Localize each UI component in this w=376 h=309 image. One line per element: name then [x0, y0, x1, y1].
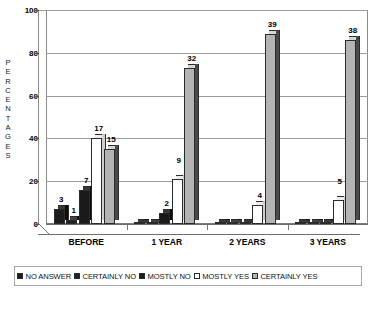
bar[interactable] — [308, 223, 319, 225]
bar-front-face — [134, 222, 145, 224]
bar-side-face — [238, 219, 242, 221]
bar[interactable] — [79, 190, 90, 224]
y-axis-title-letter: N — [2, 104, 14, 113]
bar-value-label: 39 — [264, 20, 281, 29]
legend-label: CERTAINLY NO — [83, 272, 137, 281]
x-axis-separator-tick — [127, 225, 128, 230]
legend-label: MOSTLY YES — [202, 272, 249, 281]
y-axis-tick-mark — [34, 181, 39, 182]
y-axis-tick-mark — [34, 96, 39, 97]
y-axis-tick-mark — [34, 138, 39, 139]
bar-front-face — [54, 209, 65, 224]
bar[interactable] — [252, 205, 263, 224]
plot-area: 31717152932439538 — [38, 10, 368, 235]
y-axis-tick-mark — [34, 10, 39, 11]
y-axis-title-letter: E — [2, 95, 14, 104]
x-axis-category-label: 1 YEAR — [127, 237, 208, 247]
bar[interactable] — [91, 138, 102, 224]
bar[interactable] — [320, 223, 331, 225]
bar-front-face — [227, 222, 238, 224]
bar[interactable] — [215, 223, 226, 225]
y-axis-title-letter: E — [2, 67, 14, 76]
y-axis-title-letter: P — [2, 58, 14, 67]
bar-value-label: 3 — [53, 195, 70, 204]
bar-side-face — [195, 64, 199, 220]
legend-item[interactable]: CERTAINLY YES — [252, 272, 318, 281]
bar-chart: PERCENTAGES 100806040200 317171529324395… — [0, 0, 376, 309]
bar-front-face — [91, 138, 102, 224]
y-axis-title: PERCENTAGES — [2, 58, 14, 160]
legend-label: MOSTLY NO — [148, 272, 191, 281]
bar-front-face — [184, 68, 195, 224]
y-axis-tick-labels: 100806040200 — [14, 0, 38, 240]
y-axis-tick-mark — [34, 53, 39, 54]
bar[interactable] — [240, 223, 251, 225]
bar-front-face — [215, 222, 226, 224]
bar-front-face — [104, 149, 115, 224]
bar-front-face — [345, 40, 356, 224]
bar[interactable] — [159, 213, 170, 224]
chart-legend: NO ANSWERCERTAINLY NOMOSTLY NOMOSTLY YES… — [14, 266, 362, 286]
bar-front-face — [333, 200, 344, 224]
bar[interactable] — [134, 223, 145, 225]
bar-front-face — [159, 213, 170, 224]
legend-item[interactable]: MOSTLY YES — [194, 272, 249, 281]
y-axis-title-letter: G — [2, 132, 14, 141]
bar-value-label: 15 — [103, 135, 120, 144]
legend-item[interactable]: CERTAINLY NO — [74, 272, 136, 281]
bar-group: 439 — [215, 10, 276, 224]
bar-front-face — [172, 179, 183, 224]
legend-swatch-icon — [17, 273, 23, 279]
bar[interactable] — [295, 223, 306, 225]
bar-front-face — [295, 222, 306, 224]
x-axis-separator-tick — [288, 225, 289, 230]
bar-front-face — [79, 190, 90, 224]
bar-side-face — [115, 145, 119, 220]
bar-group: 538 — [295, 10, 356, 224]
bar-groups: 31717152932439538 — [46, 10, 368, 224]
x-axis-category-label: 3 YEARS — [288, 237, 369, 247]
bar-side-face — [145, 219, 149, 221]
bar[interactable] — [147, 223, 158, 225]
bar[interactable] — [333, 200, 344, 224]
bar-front-face — [252, 205, 263, 224]
legend-swatch-icon — [74, 273, 80, 279]
bar-group: 2932 — [134, 10, 195, 224]
bar-front-face — [147, 222, 158, 224]
bar[interactable] — [227, 223, 238, 225]
bar-value-label: 32 — [183, 54, 200, 63]
bar-front-face — [240, 222, 251, 224]
legend-item[interactable]: MOSTLY NO — [139, 272, 191, 281]
y-axis-title-letter: R — [2, 77, 14, 86]
bar-side-face — [306, 219, 310, 221]
y-axis-title-letter: C — [2, 86, 14, 95]
legend-swatch-icon — [139, 273, 145, 279]
bar-value-label: 17 — [90, 124, 107, 133]
bar[interactable] — [345, 40, 356, 224]
bar-value-label: 38 — [344, 26, 361, 35]
y-axis-title-letter: A — [2, 123, 14, 132]
legend-item[interactable]: NO ANSWER — [17, 272, 71, 281]
bar[interactable] — [54, 209, 65, 224]
bar-value-label: 9 — [174, 156, 184, 165]
x-axis-category-label: BEFORE — [46, 237, 127, 247]
bar[interactable] — [172, 179, 183, 224]
bar[interactable] — [184, 68, 195, 224]
legend-label: NO ANSWER — [26, 272, 72, 281]
y-axis-title-letter: S — [2, 151, 14, 160]
x-axis-separator-tick — [207, 225, 208, 230]
y-axis-title-letter: E — [2, 142, 14, 151]
bar[interactable] — [104, 149, 115, 224]
legend-swatch-icon — [252, 273, 258, 279]
legend-label: CERTAINLY YES — [260, 272, 317, 281]
bar-value-label: 5 — [335, 177, 345, 186]
bar-front-face — [320, 222, 331, 224]
bar[interactable] — [66, 220, 77, 224]
bar-front-face — [265, 34, 276, 224]
legend-swatch-icon — [194, 273, 200, 279]
bar-front-face — [308, 222, 319, 224]
bar[interactable] — [265, 34, 276, 224]
bar-side-face — [276, 30, 280, 220]
floor-diagonal-icon — [38, 223, 50, 235]
x-axis-category-labels: BEFORE1 YEAR2 YEARS3 YEARS — [38, 237, 368, 251]
